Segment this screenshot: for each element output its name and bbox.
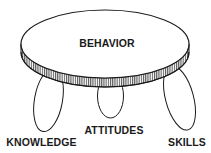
leg-label-knowledge: KNOWLEDGE [6, 136, 76, 148]
leg-label-attitudes: ATTITUDES [84, 124, 143, 136]
leg-label-skills: SKILLS [168, 136, 206, 148]
stool-diagram: BEHAVIOR KNOWLEDGE ATTITUDES SKILLS [0, 0, 211, 153]
seat-label: BEHAVIOR [79, 37, 135, 49]
